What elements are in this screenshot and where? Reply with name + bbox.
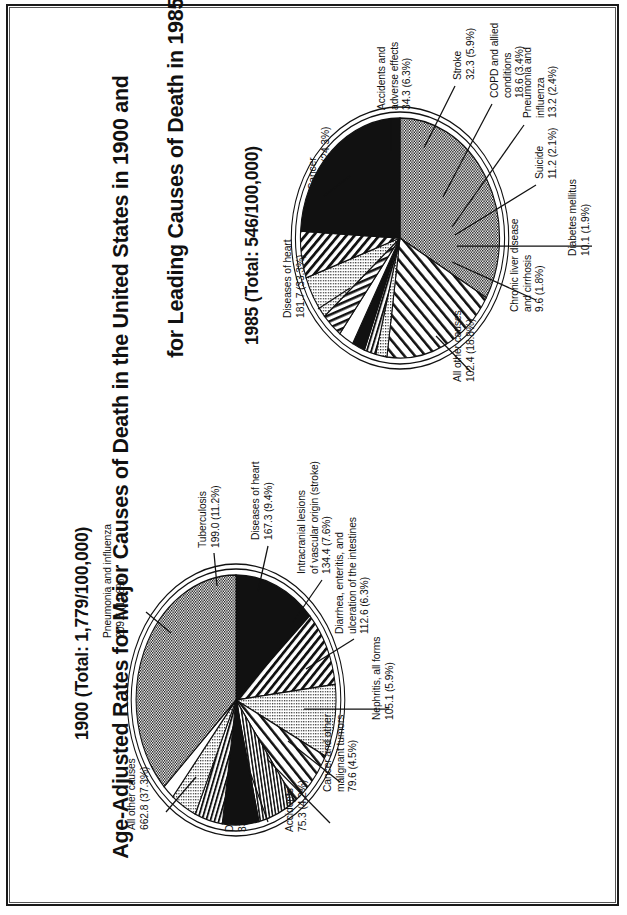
label-1900-pneumonia: Pneumonia and influenza209.5 (11.8%) — [102, 524, 127, 638]
label-1900-cancer: Cancer and othermalignant tumors79.6 (4.… — [322, 714, 360, 792]
label-1900-diseases-heart: Diseases of heart167.3 (9.4%) — [250, 462, 275, 540]
label-1900-accidents: Accidents75.3 (4.2%) — [284, 780, 309, 832]
label-1900-nephritis: Nephritis, all forms105.1 (5.9%) — [371, 637, 396, 720]
figure-page: Age-Adjusted Rates for Major Causes of D… — [0, 0, 627, 915]
chart-1900-canvas — [0, 0, 627, 915]
label-1900-diphtheria: Diphtheria33.4 (1.9%) — [224, 780, 249, 832]
label-1900-all-other: All other causes662.8 (37.3%) — [126, 758, 151, 830]
label-1900-diarrhea: Diarrhea, enteritis, andulceration of th… — [334, 517, 372, 634]
label-1900-tuberculosis: Tuberculosis199.0 (11.2%) — [197, 485, 222, 548]
label-1900-intracranial: Intracranial lesionsof vascular origin (… — [296, 461, 334, 574]
